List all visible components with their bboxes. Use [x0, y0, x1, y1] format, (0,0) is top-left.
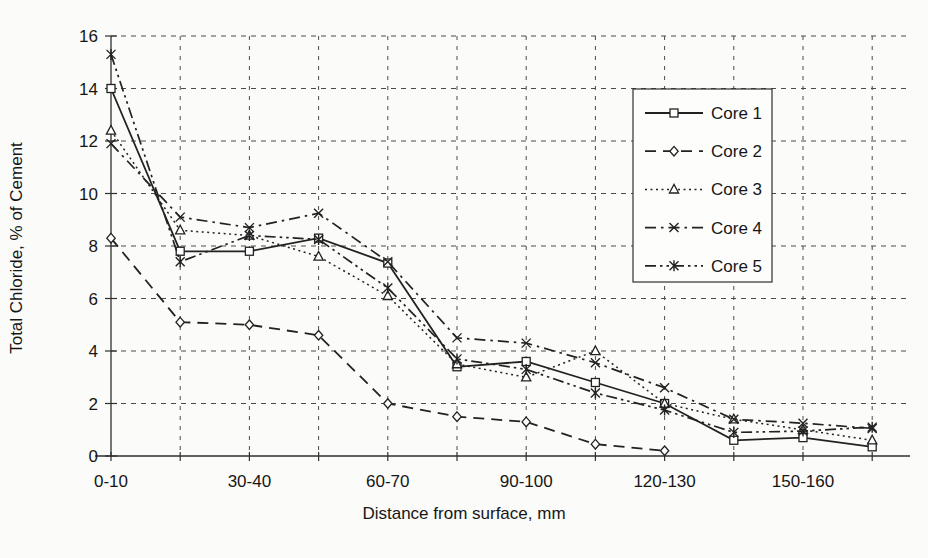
series-core-1-marker: [107, 85, 115, 93]
series-core-5-marker: [591, 388, 600, 399]
series-core-1-marker: [591, 379, 599, 387]
legend-label-core-2: Core 2: [711, 142, 762, 161]
series-core-2-marker: [245, 320, 253, 330]
y-tick-label-10: 10: [79, 185, 98, 204]
series-core-3-marker: [106, 126, 115, 135]
y-tick-label-14: 14: [79, 80, 98, 99]
x-tick-label-30-40: 30-40: [228, 472, 271, 491]
series-core-1-marker: [176, 247, 184, 255]
y-tick-label-4: 4: [89, 342, 98, 361]
series-core-5-marker: [522, 364, 531, 375]
legend-marker-core-1: [670, 109, 678, 117]
series-core-3-marker: [868, 435, 877, 444]
legend-label-core-4: Core 4: [711, 219, 762, 238]
series-core-2-marker: [660, 446, 668, 456]
y-tick-label-0: 0: [89, 447, 98, 466]
series-core-2-marker: [384, 399, 392, 409]
series-core-3-marker: [591, 346, 600, 355]
series-core-2-marker: [176, 317, 184, 327]
y-tick-label-8: 8: [89, 237, 98, 256]
series-core-2-marker: [591, 439, 599, 449]
y-tick-label-16: 16: [79, 27, 98, 46]
y-tick-label-2: 2: [89, 395, 98, 414]
x-axis-title: Distance from surface, mm: [0, 504, 928, 524]
series-core-5-marker: [383, 283, 392, 294]
legend-label-core-1: Core 1: [711, 104, 762, 123]
x-tick-label-150-160: 150-160: [772, 472, 834, 491]
chloride-profile-chart: 0-1030-4060-7090-100120-130150-160024681…: [0, 0, 928, 558]
legend-label-core-5: Core 5: [711, 257, 762, 276]
x-tick-label-90-100: 90-100: [500, 472, 553, 491]
x-tick-label-60-70: 60-70: [366, 472, 409, 491]
y-tick-label-6: 6: [89, 290, 98, 309]
plot-canvas: 0-1030-4060-7090-100120-130150-160024681…: [0, 0, 928, 558]
x-tick-label-0-10: 0-10: [94, 472, 128, 491]
series-core-2-marker: [453, 412, 461, 422]
x-tick-label-120-130: 120-130: [633, 472, 695, 491]
series-core-4-marker: [660, 383, 669, 392]
series-core-5-marker: [107, 49, 116, 60]
legend-label-core-3: Core 3: [711, 180, 762, 199]
series-core-5-marker: [176, 256, 185, 267]
y-axis-title: Total Chloride, % of Cement: [7, 118, 27, 378]
series-core-1-marker: [245, 247, 253, 255]
series-core-2-marker: [522, 417, 530, 427]
y-tick-label-12: 12: [79, 132, 98, 151]
